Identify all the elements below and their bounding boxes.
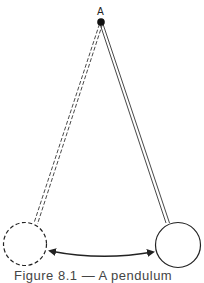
bob-right-solid bbox=[156, 223, 201, 268]
figure-caption: Figure 8.1 — A pendulum bbox=[14, 268, 172, 283]
pivot-label: A bbox=[97, 6, 104, 17]
left-string-dashed bbox=[34, 24, 103, 224]
right-string-solid bbox=[100, 24, 170, 223]
swing-arrow bbox=[50, 251, 153, 256]
bob-left-dashed bbox=[4, 223, 47, 266]
pivot-point bbox=[97, 18, 105, 26]
